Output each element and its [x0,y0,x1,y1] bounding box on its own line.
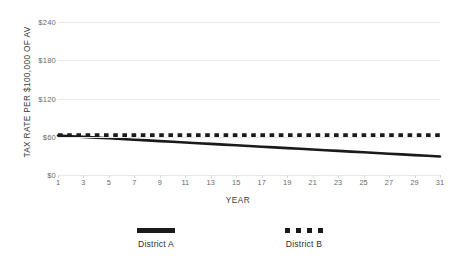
x-axis-tick-label: 27 [378,178,400,187]
legend-entry[interactable]: District B [258,228,350,249]
gridline [58,137,440,138]
gridline [58,60,440,61]
x-axis-tick-label: 9 [149,178,171,187]
y-axis-tick-labels: $240$180$120$60$0 [10,0,56,267]
x-axis-tick-label: 1 [47,178,69,187]
gridline [58,99,440,100]
legend-dash [318,228,323,233]
x-axis-tick-label: 31 [429,178,451,187]
x-axis-tick-label: 17 [251,178,273,187]
gridline [58,22,440,23]
series-line-district-a [58,135,440,156]
x-axis-tick-label: 13 [200,178,222,187]
x-axis-tick-label: 11 [174,178,196,187]
legend-label: District A [138,239,174,249]
legend-dash [285,228,290,233]
x-axis-tick-label: 25 [353,178,375,187]
chart-legend: District ADistrict B [0,228,460,249]
gridline [58,175,440,176]
legend-dash [307,228,312,233]
y-axis-tick-label: $120 [12,94,56,103]
x-axis-tick-label: 23 [327,178,349,187]
x-axis-tick-label: 5 [98,178,120,187]
x-axis-tick-labels: 135791113151719212325272931 [58,178,440,192]
legend-label: District B [286,239,322,249]
y-axis-tick-label: $240 [12,18,56,27]
x-axis-tick-label: 29 [404,178,426,187]
legend-entry[interactable]: District A [110,228,202,249]
x-axis-tick-label: 21 [302,178,324,187]
x-axis-title: YEAR [0,196,460,205]
x-axis-tick-label: 19 [276,178,298,187]
x-axis-tick-label: 3 [72,178,94,187]
x-axis-tick-label: 7 [123,178,145,187]
tax-rate-line-chart: TAX RATE PER $100,000 OF AV $240$180$120… [0,0,460,267]
y-axis-tick-label: $180 [12,56,56,65]
legend-dash [296,228,301,233]
y-axis-tick-label: $60 [12,132,56,141]
plot-area [58,22,440,175]
legend-swatch-dashed [285,228,323,233]
legend-swatch-solid [137,228,175,233]
x-axis-tick-label: 15 [225,178,247,187]
